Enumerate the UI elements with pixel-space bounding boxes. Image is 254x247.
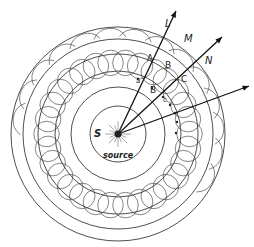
label-source: source <box>103 151 134 160</box>
label-L: L <box>165 18 171 29</box>
rays <box>118 11 249 134</box>
label-B-upper: B <box>165 60 171 70</box>
label-S: S <box>94 128 101 139</box>
huygens-diagram: L M N A B C a B c S source <box>0 0 254 247</box>
label-N: N <box>205 55 213 66</box>
label-M: M <box>184 33 193 44</box>
label-A: A <box>147 53 154 63</box>
label-C: C <box>181 74 187 84</box>
label-B-lower: B <box>150 85 156 95</box>
label-c: c <box>163 96 167 104</box>
label-a: a <box>136 77 140 85</box>
